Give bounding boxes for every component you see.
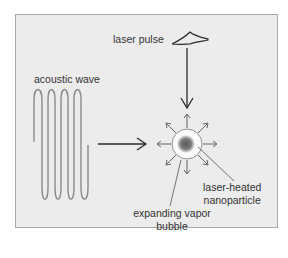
laser-pulse-label: laser pulse [113,33,164,46]
nanoparticle-label-line1: laser-heated [203,181,261,194]
acoustic-wave-icon [34,90,88,200]
propagation-arrow-icon [98,138,146,150]
bubble-label-line2: bubble [132,220,212,233]
nanoparticle-icon [177,135,195,153]
nanoparticle-label: laser-heated nanoparticle [203,181,261,207]
bubble-leader-line [170,160,181,206]
nanoparticle-label-line2: nanoparticle [203,194,261,207]
laser-pulse-icon [172,32,208,44]
laser-arrow-icon [181,48,193,108]
acoustic-wave-label: acoustic wave [34,73,100,86]
bubble-label: expanding vapor bubble [132,207,212,233]
bubble-label-line1: expanding vapor [132,207,212,220]
